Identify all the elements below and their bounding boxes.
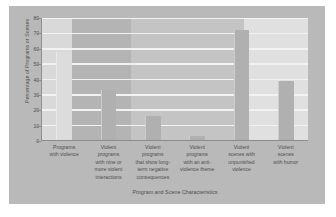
x-category-line: Violent: [175, 144, 219, 151]
gridline-30: [42, 94, 308, 96]
y-tick-mark-30: [37, 95, 41, 96]
x-category-label-6: Violentsceneswith humor: [264, 144, 308, 166]
x-category-line: Violent: [131, 144, 175, 151]
bar-5[interactable]: [234, 30, 250, 141]
bar-3[interactable]: [145, 116, 161, 141]
x-category-line: violence: [219, 166, 263, 173]
x-category-line: Violent: [219, 144, 263, 151]
bar-2[interactable]: [101, 90, 117, 141]
x-axis-line: [42, 140, 308, 141]
x-category-label-4: Violentprogramswith an anti-violence the…: [175, 144, 219, 174]
gridline-50: [42, 63, 308, 65]
y-tick-mark-80: [37, 18, 41, 19]
y-tick-mark-10: [37, 126, 41, 127]
x-category-line: with nine or: [86, 159, 130, 166]
x-category-line: consequences: [131, 174, 175, 181]
y-axis-line: [41, 18, 42, 141]
x-category-line: violence theme: [175, 166, 219, 173]
x-category-line: scenes with: [219, 151, 263, 158]
x-category-line: Programs: [42, 144, 86, 151]
x-category-line: that show long-: [131, 159, 175, 166]
x-axis-category-labels: Programswith violenceViolentprogramswith…: [42, 144, 308, 188]
gridline-10: [42, 125, 308, 127]
y-tick-mark-70: [37, 33, 41, 34]
x-category-line: more violent: [86, 166, 130, 173]
x-category-line: unpunished: [219, 159, 263, 166]
x-category-line: programs: [131, 151, 175, 158]
x-axis-title: Program and Scene Characteristics: [42, 189, 308, 195]
x-category-label-1: Programswith violence: [42, 144, 86, 159]
x-category-label-3: Violentprogramsthat show long-term negat…: [131, 144, 175, 181]
gridline-80: [42, 18, 308, 19]
plot-area: [42, 18, 308, 141]
x-category-line: with an anti-: [175, 159, 219, 166]
x-category-line: term negative: [131, 166, 175, 173]
y-tick-mark-60: [37, 49, 41, 50]
x-category-line: programs: [86, 151, 130, 158]
gridline-40: [42, 79, 308, 81]
gridline-60: [42, 48, 308, 50]
bar-6[interactable]: [278, 81, 294, 141]
y-tick-mark-40: [37, 80, 41, 81]
x-category-line: with violence: [42, 151, 86, 158]
x-category-label-5: Violentscenes withunpunishedviolence: [219, 144, 263, 174]
y-tick-mark-0: [37, 141, 41, 142]
x-category-line: programs: [175, 151, 219, 158]
x-category-line: interactions: [86, 174, 130, 181]
x-category-line: Violent: [86, 144, 130, 151]
x-category-line: Violent: [264, 144, 308, 151]
x-category-line: scenes: [264, 151, 308, 158]
bar-1[interactable]: [56, 52, 72, 141]
y-tick-mark-20: [37, 110, 41, 111]
x-category-label-2: Violentprogramswith nine ormore violenti…: [86, 144, 130, 181]
gridline-70: [42, 33, 308, 35]
chart-figure: Percentage of Programs or Scenes 0102030…: [9, 6, 325, 204]
gridline-20: [42, 109, 308, 111]
y-tick-mark-50: [37, 64, 41, 65]
x-category-line: with humor: [264, 159, 308, 166]
